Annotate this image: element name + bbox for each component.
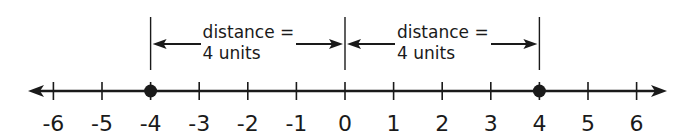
tick-label: -2 [237, 113, 259, 135]
distance-value: 4 units [203, 43, 295, 64]
tick-label: -5 [91, 113, 113, 135]
tick-label: 4 [532, 113, 546, 135]
tick-label: 1 [387, 113, 401, 135]
point-dot [144, 85, 157, 98]
tick-label: 5 [581, 113, 595, 135]
distance-label: distance = [397, 22, 489, 43]
distance-value: 4 units [397, 43, 489, 64]
point-dot [533, 85, 546, 98]
tick-label: 3 [484, 113, 498, 135]
tick-label: 0 [338, 113, 352, 135]
tick-label: 2 [435, 113, 449, 135]
distance-label: distance = [203, 22, 295, 43]
distance-note: distance =4 units [201, 22, 297, 64]
distance-note: distance =4 units [395, 22, 491, 64]
tick-label: 6 [630, 113, 644, 135]
tick-label: -6 [42, 113, 64, 135]
tick-label: -4 [140, 113, 162, 135]
tick-label: -3 [188, 113, 210, 135]
tick-label: -1 [285, 113, 307, 135]
